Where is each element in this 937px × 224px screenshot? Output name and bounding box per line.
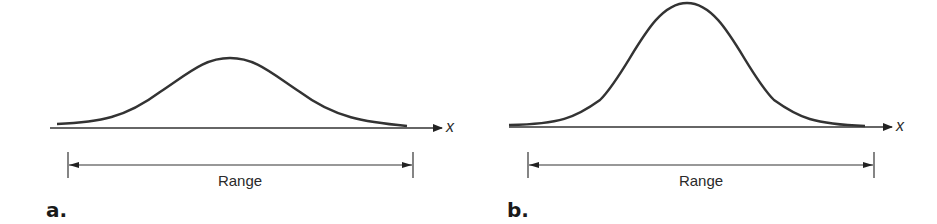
wide-normal-curve [57,58,407,126]
narrow-normal-curve [509,3,865,126]
panel-b [509,3,892,178]
panel-label-b: b. [507,198,529,222]
x-axis-label-a: x [446,118,454,136]
range-label-a: Range [218,172,262,189]
x-axis-label-b: x [896,117,904,135]
range-label-b: Range [679,172,723,189]
distribution-diagram [0,0,937,224]
panel-a [50,58,442,178]
panel-label-a: a. [46,198,67,222]
